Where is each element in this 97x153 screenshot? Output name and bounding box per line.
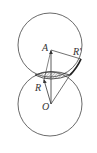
intersection-lens: [35, 72, 70, 80]
highlighted-arc: [70, 59, 81, 75]
upper-circle: [18, 13, 82, 77]
label-a: A: [41, 42, 49, 53]
line-o-to-intersection: [51, 75, 70, 104]
label-o: O: [42, 101, 49, 112]
label-r-prime: R': [72, 46, 82, 57]
label-r: R: [34, 82, 41, 93]
lower-circle: [18, 72, 82, 136]
two-circles-diagram: A R' R O: [0, 0, 97, 153]
